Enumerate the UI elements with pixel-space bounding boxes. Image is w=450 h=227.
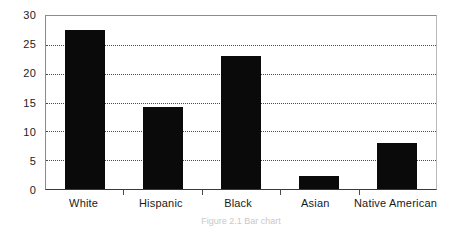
y-axis-tick-label: 10 (8, 126, 36, 137)
y-axis-tick-label: 0 (8, 185, 36, 196)
x-axis-tick (123, 190, 124, 195)
bar-hispanic (143, 107, 183, 189)
bar-chart-figure: 30 25 20 15 10 5 0 (0, 0, 450, 227)
plot-area (45, 15, 437, 190)
x-axis-label-hispanic: Hispanic (122, 196, 199, 212)
x-axis-label-black: Black (199, 196, 276, 212)
figure-caption: Figure 2.1 Bar chart (45, 216, 437, 227)
bar-black (221, 56, 261, 189)
x-axis-tick (359, 190, 360, 195)
bar-slot-asian (280, 16, 358, 189)
bar-group (46, 16, 436, 189)
y-axis-tick-label: 20 (8, 68, 36, 79)
bar-asian (299, 176, 339, 189)
x-axis-tick (280, 190, 281, 195)
x-axis-category-labels: White Hispanic Black Asian Native Americ… (45, 196, 437, 212)
x-axis-label-white: White (45, 196, 122, 212)
bar-native-american (377, 143, 417, 189)
bar-slot-black (202, 16, 280, 189)
bar-white (65, 30, 105, 189)
x-axis-label-asian: Asian (277, 196, 354, 212)
y-axis-tick-label: 30 (8, 10, 36, 21)
bar-slot-hispanic (124, 16, 202, 189)
x-axis-label-native-american: Native American (354, 196, 437, 212)
y-axis-tick-label: 5 (8, 155, 36, 166)
bar-slot-native-american (358, 16, 436, 189)
y-axis-tick-label: 15 (8, 97, 36, 108)
y-axis-tick-labels: 30 25 20 15 10 5 0 (8, 0, 36, 227)
y-axis-tick-label: 25 (8, 39, 36, 50)
x-axis-tick (202, 190, 203, 195)
bar-slot-white (46, 16, 124, 189)
